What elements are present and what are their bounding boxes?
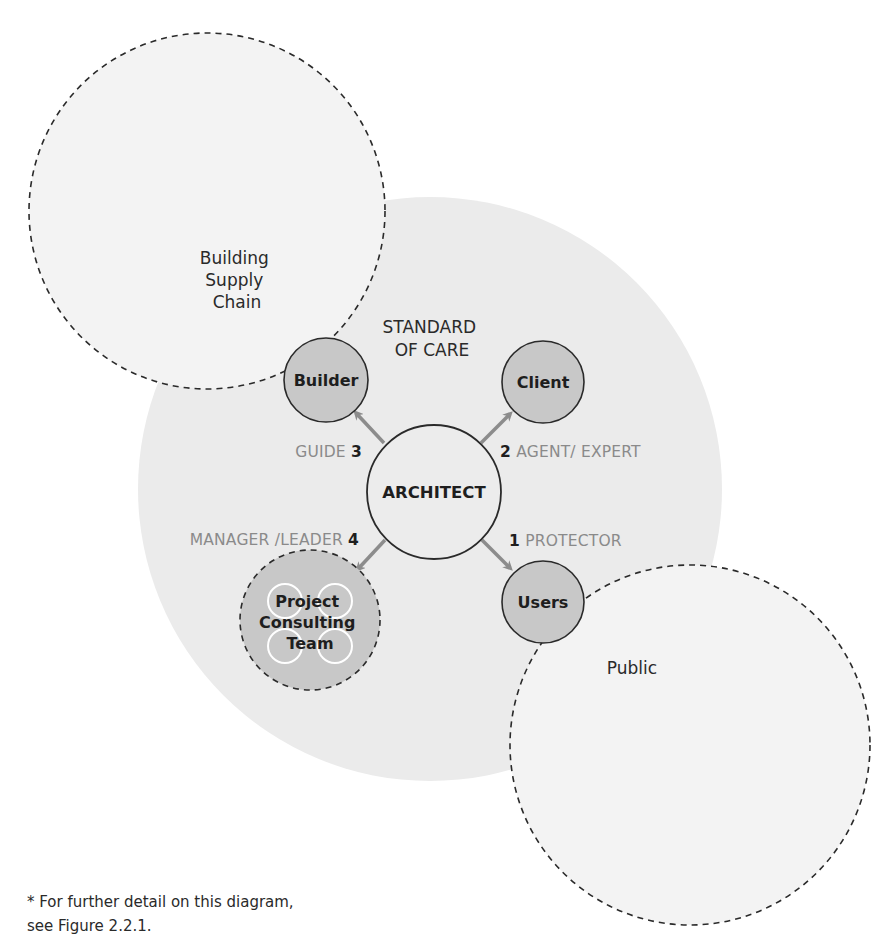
- builder-node: Builder: [284, 338, 368, 422]
- role-manager: MANAGER /LEADER 4: [190, 531, 359, 549]
- building-supply-chain-region: [29, 33, 385, 389]
- public-label: Public: [607, 658, 657, 678]
- footnote-line-1: * For further detail on this diagram,: [27, 890, 294, 914]
- role-agent: 2 AGENT/ EXPERT: [500, 443, 641, 461]
- client-label: Client: [517, 373, 570, 392]
- architect-label: ARCHITECT: [382, 483, 486, 502]
- users-label: Users: [518, 593, 569, 612]
- footnote-line-2: see Figure 2.2.1.: [27, 914, 294, 938]
- architect-roles-diagram: Building Supply Chain STANDARD OF CARE P…: [0, 0, 891, 952]
- footnote: * For further detail on this diagram, se…: [27, 890, 294, 938]
- builder-label: Builder: [294, 371, 359, 390]
- role-protector: 1 PROTECTOR: [509, 532, 622, 550]
- client-node: Client: [502, 341, 584, 423]
- project-consulting-team-node: Project Consulting Team: [240, 550, 380, 690]
- role-guide: GUIDE 3: [295, 443, 362, 461]
- users-node: Users: [502, 561, 584, 643]
- architect-node: ARCHITECT: [367, 425, 501, 559]
